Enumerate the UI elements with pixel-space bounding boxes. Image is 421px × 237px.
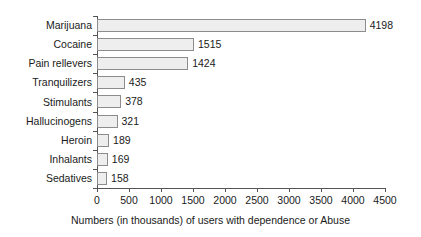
bar-tranquilizers (97, 76, 125, 89)
y-axis-tick (93, 131, 97, 132)
bar-value-label: 435 (129, 74, 147, 91)
bar-row: 4198 (97, 16, 385, 35)
bar-row: 435 (97, 73, 385, 92)
bar-sedatives (97, 172, 107, 185)
bar-value-label: 189 (113, 132, 131, 149)
category-label-stimulants: Stimulants (0, 94, 92, 111)
category-label-inhalants: Inhalants (0, 151, 92, 168)
x-axis-tick-label: 2000 (213, 194, 236, 207)
plot-area: 4198151514244353783211891691580500100015… (97, 16, 385, 188)
bar-heroin (97, 134, 109, 147)
bar-row: 158 (97, 169, 385, 188)
x-axis-title: Numbers (in thousands) of users with dep… (0, 213, 421, 227)
x-axis-tick (225, 188, 226, 192)
x-axis-tick (353, 188, 354, 192)
category-label-hallucinogens: Hallucinogens (0, 113, 92, 130)
x-axis-tick (321, 188, 322, 192)
x-axis-tick (289, 188, 290, 192)
bar-chart-figure: MarijuanaCocainePain relleversTranquiliz… (0, 0, 421, 237)
y-axis-tick (93, 169, 97, 170)
y-axis-tick (93, 73, 97, 74)
x-axis-tick (161, 188, 162, 192)
bar-marijuana (97, 19, 366, 32)
y-axis-tick (93, 92, 97, 93)
bar-inhalants (97, 153, 108, 166)
bar-row: 1515 (97, 35, 385, 54)
bar-stimulants (97, 95, 121, 108)
x-axis-line (97, 188, 385, 189)
bar-value-label: 4198 (370, 17, 393, 34)
y-axis-category-labels: MarijuanaCocainePain relleversTranquiliz… (0, 16, 92, 188)
y-axis-tick (93, 54, 97, 55)
bar-row: 378 (97, 92, 385, 111)
bar-value-label: 158 (111, 170, 129, 187)
bar-value-label: 169 (112, 151, 130, 168)
bar-value-label: 378 (125, 93, 143, 110)
category-label-sedatives: Sedatives (0, 170, 92, 187)
category-label-heroin: Heroin (0, 132, 92, 149)
x-axis-tick (257, 188, 258, 192)
bar-row: 169 (97, 150, 385, 169)
y-axis-tick (93, 35, 97, 36)
x-axis-tick (385, 188, 386, 192)
x-axis-tick-label: 4000 (341, 194, 364, 207)
bar-row: 321 (97, 112, 385, 131)
bar-value-label: 1424 (192, 55, 215, 72)
category-label-pain-rellevers: Pain rellevers (0, 55, 92, 72)
y-axis-tick (93, 150, 97, 151)
x-axis-tick (129, 188, 130, 192)
category-label-cocaine: Cocaine (0, 36, 92, 53)
bar-hallucinogens (97, 115, 118, 128)
x-axis-tick (97, 188, 98, 192)
y-axis-tick (93, 16, 97, 17)
bar-cocaine (97, 38, 194, 51)
x-axis-tick-label: 3000 (277, 194, 300, 207)
y-axis-tick (93, 112, 97, 113)
x-axis-tick (193, 188, 194, 192)
category-label-tranquilizers: Tranquilizers (0, 74, 92, 91)
x-axis-tick-label: 3500 (309, 194, 332, 207)
x-axis-tick-label: 1500 (181, 194, 204, 207)
category-label-marijuana: Marijuana (0, 17, 92, 34)
x-axis-tick-label: 1000 (149, 194, 172, 207)
bar-value-label: 1515 (198, 36, 221, 53)
bar-pain-rellevers (97, 57, 188, 70)
x-axis-tick-label: 4500 (373, 194, 396, 207)
bar-value-label: 321 (122, 113, 140, 130)
x-axis-tick-label: 0 (94, 194, 100, 207)
x-axis-tick-label: 500 (120, 194, 138, 207)
bar-row: 189 (97, 131, 385, 150)
bar-row: 1424 (97, 54, 385, 73)
x-axis-tick-label: 2500 (245, 194, 268, 207)
